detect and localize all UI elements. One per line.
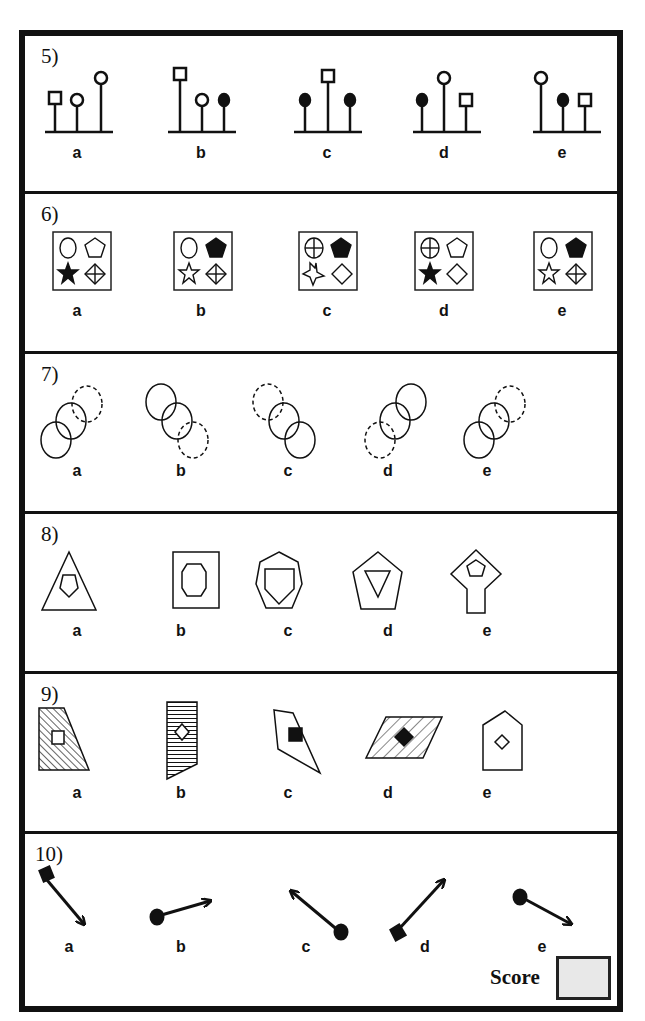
option-label-a[interactable]: a [67,302,87,320]
option-e-figure [464,386,525,458]
option-label-b[interactable]: b [171,462,191,480]
option-label-b[interactable]: b [171,622,191,640]
option-label-d[interactable]: d [415,938,435,956]
option-b-figure [167,702,197,779]
question-10: 10) [25,834,617,1006]
option-label-c[interactable]: c [317,144,337,162]
option-d-figure [366,717,442,758]
option-label-d[interactable]: d [434,144,454,162]
option-b-figure [151,901,210,924]
option-label-a[interactable]: a [67,784,87,802]
option-c-figure [299,232,357,290]
option-b-figure [174,232,232,290]
option-label-b[interactable]: b [171,784,191,802]
option-b-figure [168,68,236,132]
question-8: 8) [25,514,617,674]
question-5: 5) [25,36,617,194]
option-c-figure [253,384,315,458]
question-6: 6) [25,194,617,354]
option-a-figure [42,552,96,610]
option-a-figure [39,708,89,770]
question-9: 9) [25,674,617,834]
option-e-figure [533,72,601,132]
score-label: Score [490,965,540,990]
option-label-c[interactable]: c [278,784,298,802]
question-5-figures [25,36,617,194]
option-d-figure [415,232,473,290]
option-a-figure [53,232,111,290]
option-label-e[interactable]: e [552,302,572,320]
option-e-figure [451,550,501,613]
option-e-figure [514,890,571,924]
option-label-a[interactable]: a [59,938,79,956]
option-label-d[interactable]: d [434,302,454,320]
option-label-d[interactable]: d [378,622,398,640]
option-b-figure [146,384,208,458]
option-label-c[interactable]: c [278,622,298,640]
option-label-b[interactable]: b [191,144,211,162]
option-label-c[interactable]: c [278,462,298,480]
option-label-d[interactable]: d [378,784,398,802]
option-e-figure [534,232,592,290]
option-d-figure [353,552,402,609]
option-a-figure [40,867,84,924]
option-c-figure [294,70,362,132]
option-b-figure [173,552,219,608]
option-label-e[interactable]: e [532,938,552,956]
option-a-figure [45,72,113,132]
option-label-e[interactable]: e [552,144,572,162]
option-label-a[interactable]: a [67,144,87,162]
option-label-d[interactable]: d [378,462,398,480]
option-c-figure [256,552,302,608]
option-d-figure [391,880,444,940]
option-label-a[interactable]: a [67,462,87,480]
option-e-figure [483,711,522,770]
option-label-c[interactable]: c [296,938,316,956]
question-6-figures [25,194,617,354]
option-label-a[interactable]: a [67,622,87,640]
score-input-box[interactable] [556,956,611,1000]
question-8-figures [25,514,617,674]
question-7-figures [25,354,617,514]
option-c-figure [274,710,320,773]
option-d-figure [365,384,426,458]
option-c-figure [291,891,347,939]
option-label-e[interactable]: e [477,784,497,802]
option-d-figure [413,72,481,132]
option-label-c[interactable]: c [317,302,337,320]
option-label-b[interactable]: b [191,302,211,320]
option-label-b[interactable]: b [171,938,191,956]
option-a-figure [41,386,102,458]
question-9-figures [25,674,617,834]
question-7: 7) [25,354,617,514]
option-label-e[interactable]: e [477,462,497,480]
worksheet-frame: 5) [19,30,623,1012]
option-label-e[interactable]: e [477,622,497,640]
